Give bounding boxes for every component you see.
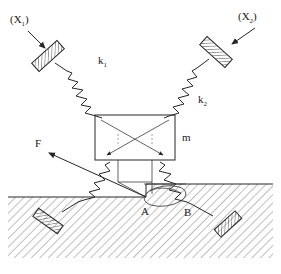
anchor-upper-left bbox=[32, 41, 67, 72]
mass-block bbox=[95, 115, 175, 160]
schematic-diagram: (X1) (X2) k1 k2 m bbox=[0, 0, 281, 274]
label-k1: k1 bbox=[98, 54, 108, 69]
label-point-b: B bbox=[184, 206, 191, 218]
label-point-a: A bbox=[141, 205, 149, 217]
spring-k2 bbox=[164, 68, 197, 118]
label-mass: m bbox=[182, 131, 191, 143]
label-x2: (X2) bbox=[238, 10, 257, 25]
displacement-arrow-x2 bbox=[232, 28, 255, 44]
label-k2: k2 bbox=[198, 93, 208, 108]
label-force: F bbox=[35, 137, 41, 149]
displacement-arrow-x1 bbox=[28, 31, 45, 48]
spring-k1 bbox=[67, 71, 102, 118]
label-x1: (X1) bbox=[10, 13, 29, 28]
figure-canvas: (X1) (X2) k1 k2 m bbox=[0, 0, 281, 274]
anchor-upper-right bbox=[197, 37, 232, 68]
